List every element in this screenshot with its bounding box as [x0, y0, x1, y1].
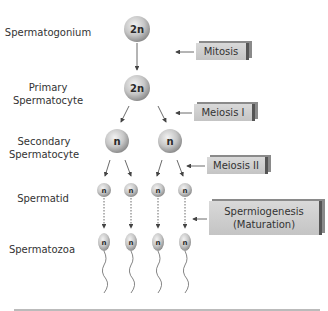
arrow-meiosis2-4: [177, 160, 183, 176]
maturation-arrows: [104, 198, 185, 228]
arrow-meiosis2-1: [105, 160, 110, 176]
arrow-meiosis2-3: [157, 160, 162, 176]
arrow-meiosis2-2: [125, 160, 131, 176]
svg-text:n: n: [129, 239, 134, 247]
svg-text:n: n: [166, 136, 173, 147]
spermatozoon-3: n: [152, 233, 164, 293]
svg-text:n: n: [102, 187, 107, 195]
diagram-canvas: 2n 2n n n n n n n n n n: [0, 0, 328, 311]
sphere-spermatogonium: 2n: [124, 16, 150, 42]
svg-text:n: n: [183, 187, 188, 195]
spermatid-4: n: [178, 183, 192, 197]
svg-text:n: n: [156, 239, 161, 247]
sphere-secondary-spermatocyte-left: n: [105, 129, 129, 153]
svg-text:n: n: [102, 239, 107, 247]
arrow-meiosis1-right: [158, 106, 166, 122]
spermatid-1: n: [97, 183, 111, 197]
svg-text:n: n: [129, 187, 134, 195]
spermatozoon-2: n: [125, 233, 137, 293]
svg-text:2n: 2n: [130, 24, 144, 35]
spermatid-3: n: [151, 183, 165, 197]
svg-text:2n: 2n: [130, 83, 144, 94]
svg-text:n: n: [156, 187, 161, 195]
spermatozoon-4: n: [179, 233, 191, 293]
sphere-primary-spermatocyte: 2n: [124, 75, 150, 101]
sphere-secondary-spermatocyte-right: n: [158, 129, 182, 153]
spermatozoon-1: n: [98, 233, 110, 293]
svg-text:n: n: [113, 136, 120, 147]
arrow-meiosis1-left: [121, 106, 129, 122]
svg-text:n: n: [183, 239, 188, 247]
spermatid-2: n: [124, 183, 138, 197]
